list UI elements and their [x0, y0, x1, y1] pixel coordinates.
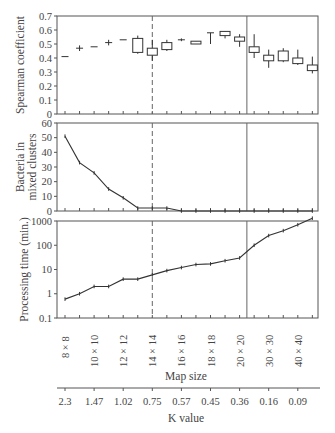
- processing-time-frame: [57, 221, 318, 318]
- k-value-axis-label: K value: [168, 412, 204, 424]
- y-tick-label: 0.4: [39, 53, 53, 64]
- map-size-tick-label: 20 × 20: [235, 335, 246, 367]
- y-tick-label: 40: [42, 147, 53, 158]
- box: [235, 37, 245, 41]
- y-tick-label: 0.1: [39, 313, 52, 324]
- box: [278, 51, 288, 61]
- y-tick-label: 100: [36, 240, 52, 251]
- data-line: [65, 136, 312, 211]
- box: [191, 41, 201, 44]
- box: [147, 48, 157, 55]
- k-value-tick-label: 0.09: [289, 396, 307, 407]
- y-axis-label: Processing time (min.): [18, 217, 31, 322]
- y-tick-label: 0.1: [39, 95, 52, 106]
- map-size-tick-label: 8 × 8: [60, 336, 71, 358]
- map-size-tick-label: 12 × 12: [118, 335, 129, 367]
- map-size-tick-label: 40 × 40: [293, 335, 304, 367]
- map-size-tick-label: 18 × 18: [206, 335, 217, 367]
- chart-figure: 00.10.20.30.40.50.60.7Spearman coefficie…: [0, 0, 335, 433]
- spearman-panel: 00.10.20.30.40.50.60.7Spearman coefficie…: [14, 11, 318, 120]
- processing-time-panel: 0.11101001000Processing time (min.): [18, 216, 318, 324]
- y-tick-label: 1000: [31, 216, 52, 227]
- y-tick-label: 30: [42, 162, 53, 173]
- k-value-tick-label: 0.36: [230, 396, 248, 407]
- k-value-tick-label: 0.57: [172, 396, 190, 407]
- k-value-tick-label: 0.75: [143, 396, 161, 407]
- y-tick-label: 0.3: [39, 67, 52, 78]
- y-axis-label: Bacteria inmixed clusters: [14, 133, 38, 200]
- y-tick-label: 60: [42, 118, 53, 129]
- map-size-tick-label: 16 × 16: [176, 335, 187, 367]
- k-value-tick-label: 1.02: [114, 396, 132, 407]
- y-axis-label: Spearman coefficient: [14, 15, 27, 114]
- map-size-tick-label: 14 × 14: [147, 334, 158, 367]
- y-tick-label: 10: [42, 264, 53, 275]
- box: [249, 47, 259, 53]
- bacteria-panel: 0102030405060Bacteria inmixed clusters: [14, 118, 318, 217]
- box: [264, 55, 274, 61]
- box: [162, 43, 172, 50]
- y-tick-label: 0.6: [39, 25, 52, 36]
- y-tick-label: 50: [42, 132, 53, 143]
- k-value-tick-label: 0.16: [260, 396, 278, 407]
- box: [133, 38, 143, 52]
- y-tick-label: 0.5: [39, 39, 52, 50]
- k-value-tick-label: 2.3: [58, 396, 71, 407]
- map-size-axis-label: Map size: [165, 370, 207, 383]
- x-axes: 8 × 810 × 1012 × 1214 × 1416 × 1618 × 18…: [57, 334, 320, 424]
- k-value-tick-label: 1.47: [85, 396, 103, 407]
- map-size-tick-label: 10 × 10: [89, 335, 100, 367]
- y-tick-label: 1: [47, 288, 52, 299]
- data-line: [65, 218, 312, 299]
- y-tick-label: 0.7: [39, 11, 52, 22]
- y-tick-label: 10: [42, 191, 53, 202]
- box: [293, 58, 303, 64]
- y-tick-label: 0.2: [39, 81, 52, 92]
- k-value-tick-label: 0.45: [201, 396, 219, 407]
- box: [220, 31, 230, 35]
- spearman-frame: [57, 16, 318, 114]
- bacteria-frame: [57, 123, 318, 211]
- box: [307, 65, 317, 71]
- map-size-tick-label: 30 × 30: [264, 335, 275, 367]
- y-tick-label: 20: [42, 176, 53, 187]
